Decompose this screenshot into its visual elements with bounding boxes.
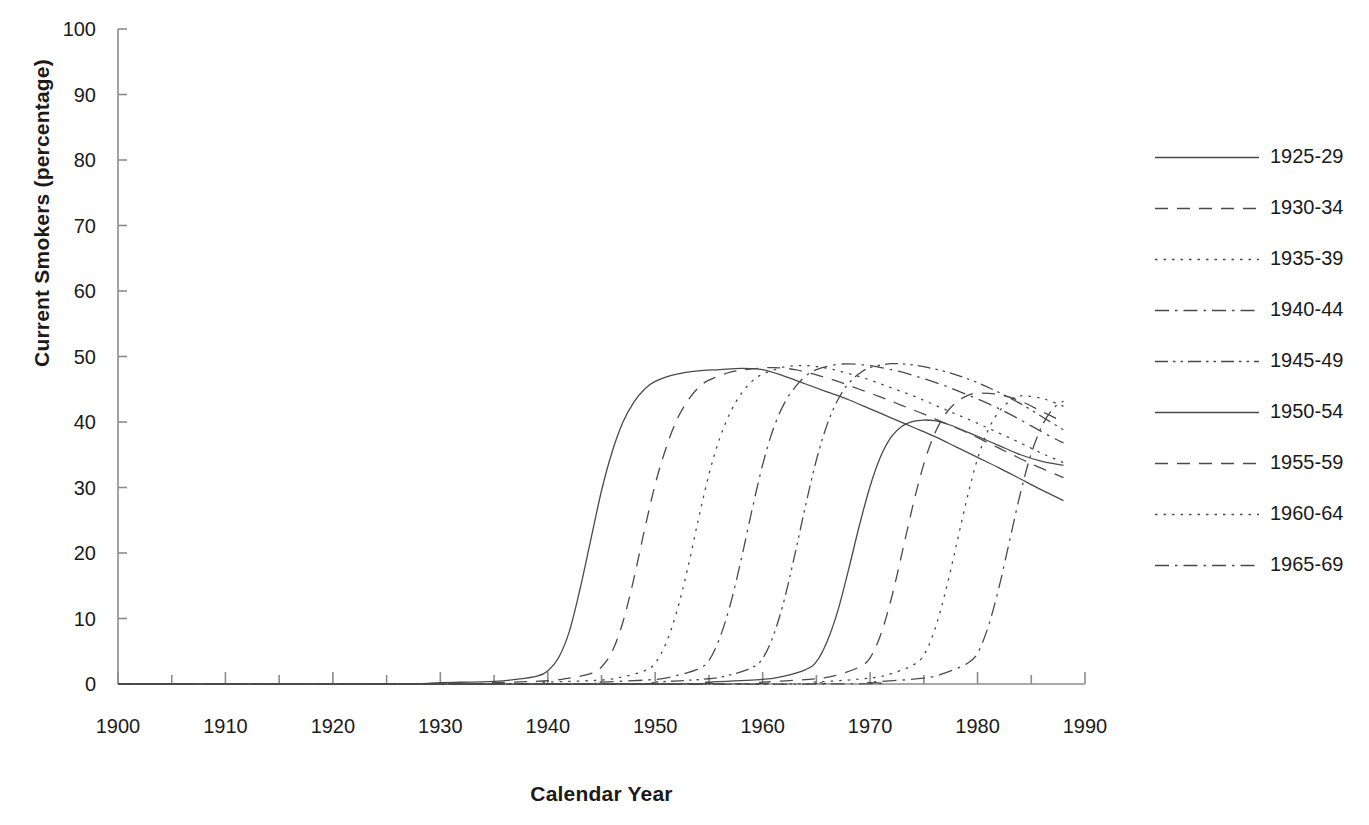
legend-label: 1940-44 [1270,298,1343,321]
legend-item-1940-44[interactable]: 1940-44 [1150,293,1365,344]
legend-line-sample [1155,309,1259,311]
legend-item-1965-69[interactable]: 1965-69 [1150,548,1365,599]
legend-label: 1930-34 [1270,196,1343,219]
legend-line-sample [1155,156,1259,158]
series-line-1940-44 [118,364,1064,684]
legend-item-1925-29[interactable]: 1925-29 [1150,140,1365,191]
x-axis-label: Calendar Year [118,782,1085,806]
x-tick-label: 1920 [288,716,378,736]
series-line-1925-29 [118,368,1064,684]
series-line-1930-34 [118,368,1064,684]
y-tick-label: 20 [30,543,96,563]
axes [118,29,1085,684]
legend-label: 1945-49 [1270,349,1343,372]
legend-label: 1955-59 [1270,451,1343,474]
x-tick-label: 1940 [503,716,593,736]
legend-label: 1965-69 [1270,553,1343,576]
legend-line-sample [1155,360,1259,362]
y-tick-label: 0 [30,674,96,694]
series-lines [118,364,1064,685]
legend-line-sample [1155,564,1259,566]
y-tick-label: 60 [30,281,96,301]
x-tick-label: 1960 [718,716,808,736]
legend-line-sample [1155,411,1259,413]
legend-label: 1950-54 [1270,400,1343,423]
y-axis-label-text: Current Smokers (percentage) [30,59,54,367]
y-tick-label: 50 [30,347,96,367]
legend-line-sample [1155,513,1259,515]
legend-item-1950-54[interactable]: 1950-54 [1150,395,1365,446]
legend-label: 1935-39 [1270,247,1343,270]
legend-label: 1960-64 [1270,502,1343,525]
y-tick-label: 80 [30,150,96,170]
series-line-1950-54 [118,420,1064,684]
x-tick-label: 1910 [180,716,270,736]
x-tick-label: 1980 [933,716,1023,736]
smoking-prevalence-chart: Current Smokers (percentage) Calendar Ye… [0,0,1369,825]
legend-item-1930-34[interactable]: 1930-34 [1150,191,1365,242]
legend-item-1960-64[interactable]: 1960-64 [1150,497,1365,548]
legend: 1925-291930-341935-391940-441945-491950-… [1150,140,1365,599]
series-line-1945-49 [118,364,1064,685]
legend-label: 1925-29 [1270,145,1343,168]
y-tick-label: 90 [30,85,96,105]
y-tick-label: 40 [30,412,96,432]
x-tick-label: 1990 [1040,716,1130,736]
legend-line-sample [1155,258,1259,260]
x-tick-label: 1930 [395,716,485,736]
legend-line-sample [1155,207,1259,209]
legend-item-1935-39[interactable]: 1935-39 [1150,242,1365,293]
y-tick-label: 30 [30,478,96,498]
x-axis-label-text: Calendar Year [530,782,672,805]
x-tick-label: 1950 [610,716,700,736]
x-tick-label: 1970 [825,716,915,736]
legend-item-1955-59[interactable]: 1955-59 [1150,446,1365,497]
y-tick-label: 100 [30,19,96,39]
y-tick-label: 10 [30,609,96,629]
y-tick-label: 70 [30,216,96,236]
legend-line-sample [1155,462,1259,464]
x-tick-label: 1900 [73,716,163,736]
legend-item-1945-49[interactable]: 1945-49 [1150,344,1365,395]
